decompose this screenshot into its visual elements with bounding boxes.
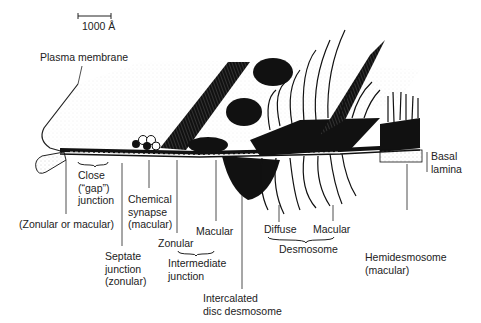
hemidesmosome (380, 92, 422, 210)
label-diffuse: Diffuse (264, 223, 297, 236)
plasma-membrane-leader (78, 66, 82, 84)
label-intermediate-junction: Intermediate junction (168, 257, 226, 282)
lower-membrane-flap (36, 152, 66, 173)
braces (78, 162, 334, 256)
label-septate-junction: Septate junction (zonular) (105, 250, 146, 288)
label-basal-lamina: Basal lamina (431, 150, 462, 175)
label-desmosome: Desmosome (279, 243, 338, 256)
intercalated-disc-mass (222, 156, 280, 200)
label-plasma-membrane: Plasma membrane (40, 51, 128, 64)
scale-bar-label: 1000 Å (82, 20, 115, 33)
label-hemidesmosome: Hemidesmosome (macular) (365, 251, 447, 276)
label-close-gap-junction: Close (“gap”) junction (78, 169, 114, 207)
label-intercalated-disc-desmosome: Intercalated disc desmosome (203, 292, 282, 317)
label-macular-desmosome: Macular (313, 223, 350, 236)
scale-bar (78, 13, 111, 19)
label-zonular: Zonular (158, 237, 194, 250)
label-zonular-or-macular: (Zonular or macular) (19, 218, 114, 231)
label-macular-intermediate: Macular (196, 225, 233, 238)
label-chemical-synapse: Chemical synapse (macular) (128, 193, 172, 231)
